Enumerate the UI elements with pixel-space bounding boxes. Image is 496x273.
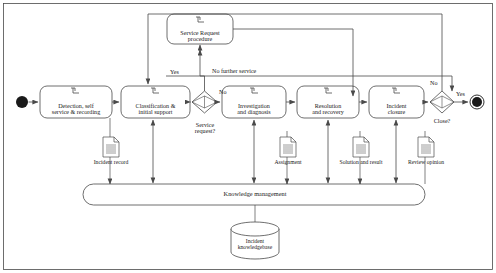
document-icon-assignment	[280, 137, 296, 157]
activity-classification	[121, 86, 190, 118]
edge-label-no-close: No	[430, 80, 437, 86]
edge-label-yes-close: Yes	[456, 91, 465, 97]
artifact-label-incident-record: Incident record	[86, 159, 136, 165]
document-icon-review-opinion	[418, 137, 434, 157]
knowledge-management-bar	[83, 184, 425, 205]
artifact-label-solution-and-result: Solution and result	[330, 159, 392, 165]
start-node	[16, 96, 28, 108]
diagram-graphics	[0, 0, 496, 273]
artifact-label-assignment: Assignment	[265, 159, 311, 165]
edge-yes-to-service-request-procedure	[200, 50, 205, 91]
document-icon-incident-record	[103, 137, 119, 157]
edge-label-no-service-request: No	[219, 89, 226, 95]
document-icon-solution-and-result	[353, 137, 369, 157]
edge-label-yes-service-request: Yes	[170, 69, 179, 75]
datastore-incident-knowledgebase	[231, 222, 279, 259]
activity-closure	[369, 86, 424, 118]
edge-label-no-further-service: No further service	[212, 68, 256, 74]
artifact-label-review-opinion: Review opinion	[400, 159, 452, 165]
diagram-canvas: Detection, self service & recording Clas…	[0, 0, 496, 273]
activity-marker-icons	[71, 17, 400, 93]
activity-detection	[40, 86, 112, 118]
end-node	[472, 97, 482, 107]
